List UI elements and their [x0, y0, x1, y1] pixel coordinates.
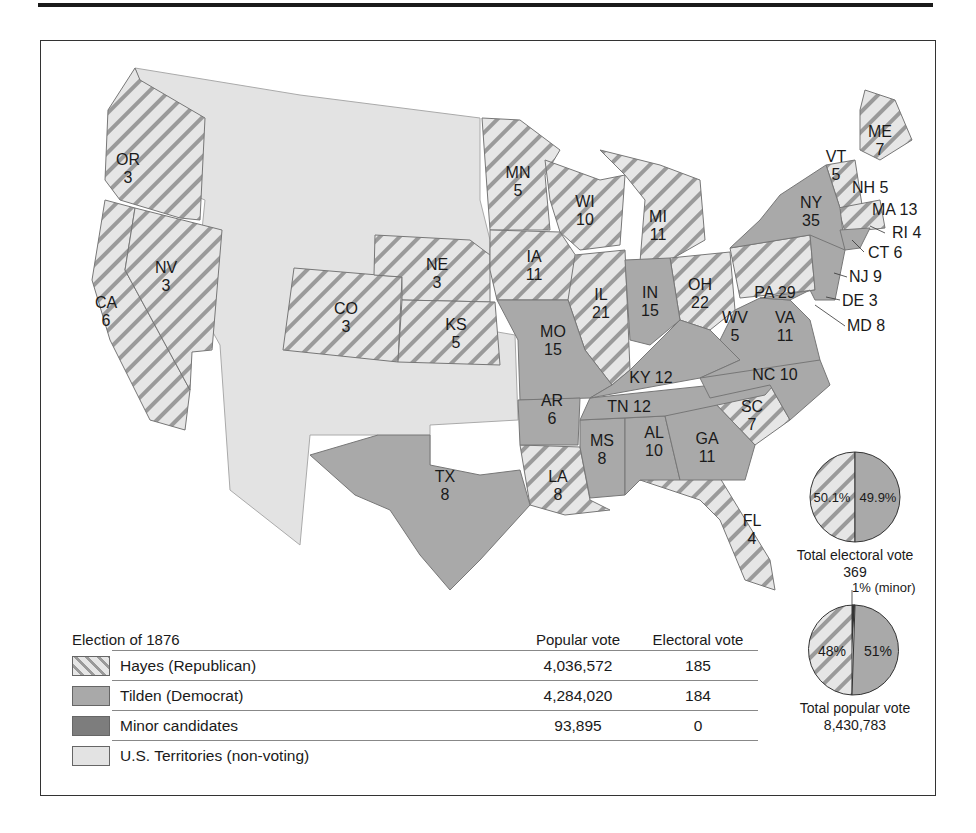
- label-MI: MI11: [649, 208, 667, 243]
- legend-table: Election of 1876 Popular vote Electoral …: [72, 627, 758, 771]
- legend-header: Election of 1876 Popular vote Electoral …: [72, 627, 758, 651]
- row-label: Tilden (Democrat): [120, 687, 518, 705]
- popular-vote-pie: 1% (minor) 48% 51%: [808, 580, 915, 695]
- row-label: Hayes (Republican): [120, 657, 518, 675]
- popular-total: 8,430,783: [775, 717, 935, 734]
- col-electoral-vote: Electoral vote: [638, 631, 758, 648]
- label-MD: MD 8: [847, 317, 885, 334]
- label-NJ: NJ 9: [849, 268, 882, 285]
- hayes-swatch: [72, 656, 110, 676]
- electoral-total: 369: [775, 564, 935, 581]
- row-electoral: 0: [638, 717, 758, 735]
- label-PA: PA 29: [754, 284, 796, 301]
- popular-caption: Total popular vote 8,430,783: [775, 700, 935, 734]
- state-TX: [310, 435, 530, 590]
- territories-swatch: [72, 746, 110, 766]
- row-label: Minor candidates: [120, 717, 518, 735]
- popular-caption-label: Total popular vote: [775, 700, 935, 717]
- legend-title: Election of 1876: [72, 631, 518, 648]
- label-KY: KY 12: [629, 369, 672, 386]
- label-IN: IN15: [641, 284, 659, 319]
- row-popular: 93,895: [518, 717, 638, 735]
- state-NY: [730, 165, 845, 250]
- electoral-hayes-pct: 50.1%: [814, 490, 851, 505]
- electoral-caption-label: Total electoral vote: [775, 547, 935, 564]
- electoral-caption: Total electoral vote 369: [775, 547, 935, 581]
- label-NY: NY35: [800, 194, 823, 229]
- label-WI: WI10: [575, 193, 595, 228]
- label-TN: TN 12: [607, 398, 651, 415]
- label-IA: IA11: [526, 248, 543, 283]
- legend-row-territories: U.S. Territories (non-voting): [72, 741, 758, 771]
- label-DE: DE 3: [842, 292, 878, 309]
- label-NH: NH 5: [852, 179, 889, 196]
- minor-swatch: [72, 716, 110, 736]
- state-IA: [490, 230, 580, 300]
- popular-minor-pct: 1% (minor): [852, 580, 916, 595]
- row-electoral: 184: [638, 687, 758, 705]
- tilden-swatch: [72, 686, 110, 706]
- label-MA: MA 13: [872, 201, 917, 218]
- row-popular: 4,284,020: [518, 687, 638, 705]
- label-AL: AL10: [644, 424, 664, 459]
- row-label: U.S. Territories (non-voting): [120, 747, 758, 765]
- label-IL: IL21: [592, 286, 610, 321]
- col-popular-vote: Popular vote: [518, 631, 638, 648]
- label-NC: NC 10: [752, 366, 797, 383]
- legend-row-minor: Minor candidates 93,895 0: [72, 711, 758, 741]
- label-CT: CT 6: [868, 244, 902, 261]
- label-VA: VA11: [775, 309, 795, 344]
- electoral-vote-pie: 50.1% 49.9%: [810, 452, 900, 542]
- state-CT: [840, 228, 870, 250]
- legend-row-tilden: Tilden (Democrat) 4,284,020 184: [72, 681, 758, 711]
- legend-row-hayes: Hayes (Republican) 4,036,572 185: [72, 651, 758, 681]
- electoral-tilden-pct: 49.9%: [860, 490, 897, 505]
- row-electoral: 185: [638, 657, 758, 675]
- label-OH: OH22: [688, 276, 712, 311]
- popular-hayes-pct: 48%: [818, 643, 846, 659]
- label-RI: RI 4: [892, 224, 921, 241]
- row-popular: 4,036,572: [518, 657, 638, 675]
- popular-tilden-pct: 51%: [864, 643, 892, 659]
